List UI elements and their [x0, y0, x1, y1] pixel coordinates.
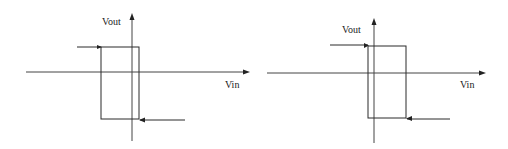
- y-axis-label: Vout: [102, 16, 121, 27]
- x-axis-label: Vin: [460, 79, 474, 90]
- hysteresis-loop: [101, 47, 139, 119]
- diagram-left: Vout Vin: [26, 13, 250, 141]
- y-axis-arrow-icon: [130, 13, 135, 20]
- lower-arrow-icon: [139, 118, 145, 123]
- hysteresis-diagrams: Vout Vin Vout Vin: [0, 0, 508, 149]
- x-axis-label: Vin: [225, 79, 239, 90]
- y-axis-label: Vout: [342, 24, 361, 35]
- x-axis-arrow-icon: [243, 70, 250, 75]
- lower-arrow-icon: [406, 116, 412, 121]
- y-axis-arrow-icon: [372, 18, 377, 25]
- x-axis-arrow-icon: [479, 71, 486, 76]
- diagram-right: Vout Vin: [267, 18, 486, 143]
